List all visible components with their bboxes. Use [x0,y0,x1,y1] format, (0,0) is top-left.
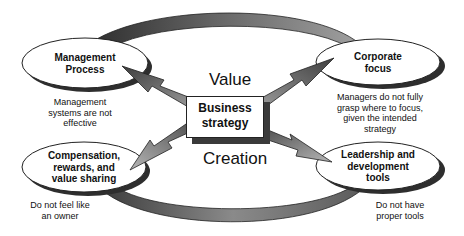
label-line: Process [35,64,135,76]
node-label-leadership: Leadership and development tools [328,149,428,184]
label-line: Compensation, [34,150,134,162]
node-label-corporate-focus: Corporate focus [328,51,428,74]
arrow-to-corporate-focus [258,58,334,108]
label-line: rewards, and [34,162,134,174]
value-word: Value [209,70,251,90]
label-line: Management [35,52,135,64]
label-line: development [328,161,428,173]
arrow-to-leadership [268,130,332,162]
note-line: Managers do not fully [325,92,435,103]
ring-arc-top [92,13,360,48]
node-label-compensation: Compensation, rewards, and value sharing [34,150,134,185]
note-leadership: Do not have proper tools [360,200,440,221]
note-management-process: Management systems are not effective [30,97,130,129]
note-line: effective [30,118,130,129]
center-title-line: strategy [186,116,264,131]
center-title-line: Business [186,101,264,116]
note-line: systems are not [30,108,130,119]
label-line: Corporate [328,51,428,63]
arrow-to-compensation [130,124,190,170]
note-compensation: Do not feel like an owner [20,200,100,221]
label-line: focus [328,63,428,75]
business-strategy-label: Business strategy [186,101,264,131]
note-line: Do not feel like [20,200,100,211]
note-line: Do not have [360,200,440,211]
label-line: tools [328,172,428,184]
label-line: Leadership and [328,149,428,161]
note-line: grasp where to focus, [325,103,435,114]
note-corporate-focus: Managers do not fully grasp where to foc… [325,92,435,134]
ring-arc-bottom [98,184,368,222]
creation-word: Creation [203,149,267,169]
label-line: value sharing [34,173,134,185]
note-line: an owner [20,211,100,222]
node-label-management-process: Management Process [35,52,135,75]
note-line: proper tools [360,211,440,222]
value-creation-diagram: Business strategy Value Creation Managem… [0,0,464,236]
note-line: Management [30,97,130,108]
note-line: strategy [325,124,435,135]
note-line: given the intended [325,113,435,124]
